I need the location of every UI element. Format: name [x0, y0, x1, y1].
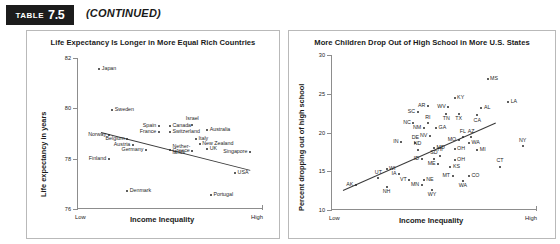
table-badge-word: TABLE: [15, 11, 44, 20]
data-point: [452, 175, 454, 177]
data-point: [191, 124, 193, 126]
data-point: [468, 142, 470, 144]
data-point-label: AR: [418, 103, 425, 109]
data-point-label: TX: [455, 116, 462, 122]
data-point-label: RI: [425, 115, 430, 121]
data-point-label: TN: [443, 116, 450, 122]
data-point-label: Norway: [88, 132, 106, 138]
data-point: [487, 78, 489, 80]
y-tick-right-15: [327, 171, 332, 172]
data-point-label: Denmark: [130, 188, 152, 194]
data-point-label: AL: [484, 105, 490, 111]
y-axis-left: [77, 58, 78, 209]
data-point: [210, 194, 212, 196]
chart-title-right: More Children Drop Out of High School in…: [289, 38, 555, 47]
data-point: [98, 68, 100, 70]
chart-panel-left: Life Expectancy Is Longer in More Equal …: [26, 30, 280, 239]
data-point-label: NH: [383, 189, 391, 195]
data-point-label: KS: [453, 164, 460, 170]
data-point-label: MS: [490, 76, 498, 82]
data-point-label: CO: [472, 173, 480, 179]
data-point-label: CT: [496, 158, 503, 164]
data-point-label: AZ: [468, 129, 475, 135]
data-point: [476, 149, 478, 151]
data-point-label: WA: [472, 140, 480, 146]
data-point-label: ME: [428, 161, 436, 167]
y-tick-label-left-80: 80: [65, 105, 71, 111]
data-point: [427, 122, 429, 124]
y-tick-label-right-15: 15: [319, 168, 325, 174]
data-point: [199, 143, 201, 145]
y-tick-label-left-76: 76: [65, 206, 71, 212]
data-point: [462, 136, 464, 138]
data-point: [108, 158, 110, 160]
data-point: [417, 111, 419, 113]
data-point-label: HI: [438, 147, 443, 153]
data-point-label: IN: [393, 139, 398, 145]
data-point-label: New Zealand: [202, 141, 233, 147]
y-axis-label-left: Life expectancy in years: [39, 112, 48, 197]
figure-root: TABLE 7.5 (CONTINUED) Life Expectancy Is…: [0, 0, 560, 244]
data-point-label: WA: [459, 183, 467, 189]
y-tick-label-right-30: 30: [319, 52, 325, 58]
data-point-label: NC: [403, 120, 411, 126]
data-point-label: NE: [426, 177, 433, 183]
data-point: [468, 175, 470, 177]
x-axis-label-left: Income Inequality: [130, 215, 194, 224]
data-point: [423, 127, 425, 129]
data-point-label: IA: [391, 171, 396, 177]
y-tick-left-82: [73, 58, 78, 59]
data-point-label: MN: [411, 182, 419, 188]
data-point-label: MT: [442, 173, 450, 179]
data-point: [421, 184, 423, 186]
data-point: [206, 148, 208, 150]
data-point: [499, 166, 501, 168]
data-point-label: KY: [457, 95, 464, 101]
y-tick-right-25: [327, 94, 332, 95]
y-tick-label-right-10: 10: [319, 207, 325, 213]
data-point: [454, 148, 456, 150]
data-point: [234, 172, 236, 174]
data-point-label: NY: [519, 138, 526, 144]
data-point-label: MI: [480, 147, 486, 153]
x-axis-right: [331, 209, 537, 210]
y-tick-right-20: [327, 133, 332, 134]
data-point: [480, 107, 482, 109]
data-point: [458, 139, 460, 141]
data-point: [447, 106, 449, 108]
data-point-label: SC: [408, 109, 415, 115]
x-tick-label-left-high: High: [251, 214, 263, 220]
data-point: [111, 109, 113, 111]
data-point-label: WY: [428, 192, 437, 198]
y-tick-right-30: [327, 55, 332, 56]
data-point: [126, 190, 128, 192]
x-tick-left-high: [262, 205, 263, 210]
y-tick-label-left-78: 78: [65, 156, 71, 162]
chart-panel-right: More Children Drop Out of High School in…: [288, 30, 556, 239]
data-point: [169, 149, 171, 151]
data-point-label: Australia: [210, 127, 231, 133]
x-axis-label-right: Income Inequality: [399, 216, 463, 225]
data-point-label: Switzerland: [173, 129, 200, 135]
data-point: [126, 138, 128, 140]
x-tick-label-right-low: Low: [329, 215, 340, 221]
x-tick-left-low: [77, 205, 78, 210]
data-point-label: Finland: [89, 156, 106, 162]
data-point-label: Israel: [186, 116, 199, 122]
data-point-label: VT: [400, 177, 407, 183]
data-point: [449, 166, 451, 168]
data-point-label: MO: [448, 137, 457, 143]
data-point-label: ID: [414, 156, 419, 162]
data-point-label: Portugal: [213, 192, 233, 198]
data-point-label: NV: [420, 133, 427, 139]
data-point: [386, 168, 388, 170]
data-point-label: UK: [210, 146, 217, 152]
data-point: [429, 135, 431, 137]
data-point-label: LA: [511, 99, 517, 105]
data-point: [421, 158, 423, 160]
chart-title-left: Life Expectancy Is Longer in More Equal …: [27, 38, 279, 47]
data-point: [377, 177, 379, 179]
data-point-label: Sweden: [115, 107, 134, 113]
data-point: [427, 105, 429, 107]
data-point-label: Germany: [122, 147, 144, 153]
